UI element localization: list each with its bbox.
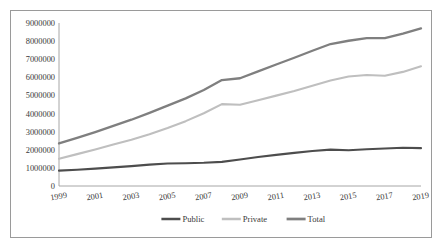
y-tick-label: 2000000: [26, 146, 55, 155]
legend-label-total[interactable]: Total: [308, 214, 326, 224]
x-tick-label: 2011: [267, 191, 285, 202]
data-series-group: [59, 28, 421, 170]
y-tick-label: 5000000: [26, 91, 55, 100]
legend-label-private[interactable]: Private: [243, 214, 268, 224]
chart-figure: 0100000020000003000000400000050000006000…: [10, 10, 432, 238]
x-tick-label: 2009: [231, 191, 249, 203]
series-line-private: [59, 66, 421, 159]
y-tick-label: 8000000: [26, 37, 55, 46]
x-tick-label: 2019: [412, 191, 430, 203]
series-line-public: [59, 148, 421, 171]
x-tick-label: 2017: [375, 191, 393, 203]
series-line-total: [59, 28, 421, 143]
x-tick-label: 1999: [50, 191, 68, 203]
y-tick-label: 4000000: [26, 110, 55, 119]
y-tick-label: 7000000: [26, 55, 55, 64]
chart-legend: PublicPrivateTotal: [161, 214, 325, 224]
x-tick-label: 2013: [303, 191, 321, 203]
y-tick-label: 6000000: [26, 73, 55, 82]
x-axis-tick-labels: 1999200120032005200720092011201320152017…: [50, 191, 430, 203]
y-tick-label: 9000000: [26, 19, 55, 28]
x-tick-label: 2001: [86, 191, 104, 203]
y-tick-label: 3000000: [26, 128, 55, 137]
y-tick-label: 1000000: [26, 164, 55, 173]
line-chart: 0100000020000003000000400000050000006000…: [11, 11, 433, 239]
x-tick-label: 2007: [194, 191, 212, 203]
chart-plot-area: 0100000020000003000000400000050000006000…: [11, 11, 433, 239]
x-tick-label: 2005: [158, 191, 176, 203]
y-axis-tick-labels: 0100000020000003000000400000050000006000…: [26, 19, 55, 191]
y-tick-label: 0: [51, 182, 55, 191]
x-tick-label: 2015: [339, 191, 357, 203]
x-tick-label: 2003: [122, 191, 140, 203]
legend-label-public[interactable]: Public: [182, 214, 204, 224]
